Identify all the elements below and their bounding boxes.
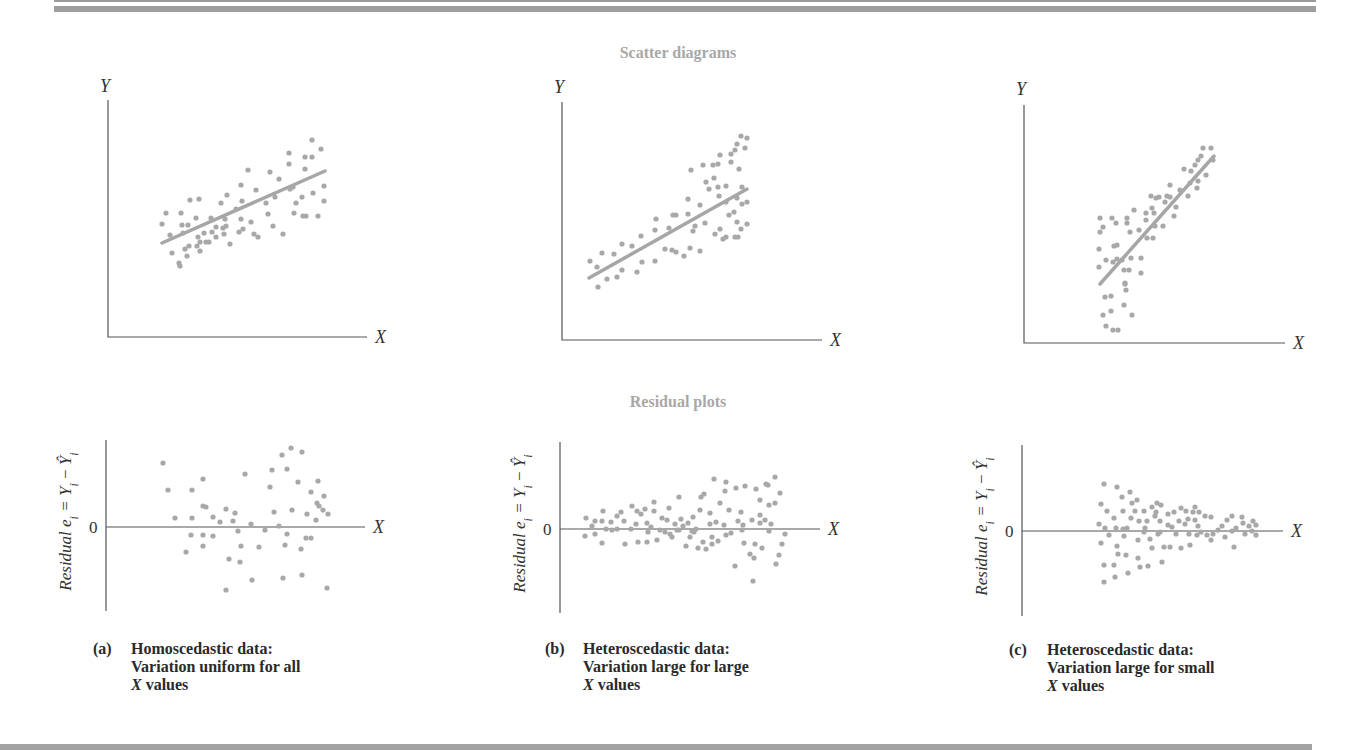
data-point (286, 150, 291, 155)
data-point (772, 474, 777, 479)
caption-variable: X (131, 676, 142, 693)
data-point (189, 487, 194, 492)
data-point (609, 527, 614, 532)
data-point (757, 520, 762, 525)
caption-line1: Heteroscedastic data: (583, 640, 730, 657)
data-point (741, 540, 746, 545)
data-point (324, 585, 329, 590)
data-point (697, 202, 702, 207)
data-point (1156, 194, 1161, 199)
data-point (732, 147, 737, 152)
data-point (753, 486, 758, 491)
x-axis-label: X (1292, 333, 1305, 353)
regression-line (589, 189, 747, 278)
data-point (1102, 525, 1107, 530)
data-point (772, 500, 777, 505)
data-point (1224, 517, 1229, 522)
data-point (723, 183, 728, 188)
data-point (685, 520, 690, 525)
data-point (1176, 518, 1181, 523)
data-point (702, 220, 707, 225)
data-point (304, 511, 309, 516)
data-point (587, 258, 592, 263)
data-point (265, 211, 270, 216)
data-point (1153, 509, 1158, 514)
data-point (1178, 545, 1183, 550)
data-point (1194, 185, 1199, 190)
data-point (1098, 501, 1103, 506)
data-point (284, 466, 289, 471)
data-point (759, 545, 764, 550)
data-point (235, 528, 240, 533)
data-point (1096, 264, 1101, 269)
data-point (739, 184, 744, 189)
data-point (690, 514, 695, 519)
data-point (201, 230, 206, 235)
data-point (1098, 540, 1103, 545)
data-point (1200, 145, 1205, 150)
data-point (706, 186, 711, 191)
data-point (732, 563, 737, 568)
data-point (226, 556, 231, 561)
caption-line3: values (594, 676, 641, 693)
data-point (782, 531, 787, 536)
data-point (723, 199, 728, 204)
data-point (628, 526, 633, 531)
data-point (200, 532, 205, 537)
data-point (1210, 531, 1215, 536)
data-point (1112, 574, 1117, 579)
data-point (1204, 532, 1209, 537)
data-point (700, 162, 705, 167)
data-point (165, 487, 170, 492)
data-point (1208, 537, 1213, 542)
data-point (315, 478, 320, 483)
data-point (1131, 207, 1136, 212)
data-point (1144, 518, 1149, 523)
data-point (320, 507, 325, 512)
data-point (629, 243, 634, 248)
data-point (683, 543, 688, 548)
data-point (1134, 497, 1139, 502)
data-point (621, 518, 626, 523)
data-point (685, 211, 690, 216)
data-point (1135, 537, 1140, 542)
data-point (715, 184, 720, 189)
data-point (237, 559, 242, 564)
data-point (701, 491, 706, 496)
data-point (687, 534, 692, 539)
data-point (1150, 235, 1155, 240)
data-point (1149, 545, 1154, 550)
axes (108, 100, 367, 337)
data-point (1151, 210, 1156, 215)
scatter-a-plot: YX (100, 76, 387, 347)
data-point (762, 517, 767, 522)
data-point (672, 521, 677, 526)
data-point (1114, 242, 1119, 247)
data-point (757, 497, 762, 502)
data-point (1113, 220, 1118, 225)
data-point (1169, 524, 1174, 529)
data-point (167, 232, 172, 237)
data-point (180, 230, 185, 235)
data-point (1114, 543, 1119, 548)
data-point (239, 198, 244, 203)
data-point (1101, 562, 1106, 567)
data-point (169, 250, 174, 255)
data-point (707, 510, 712, 515)
data-point (592, 531, 597, 536)
bottom-rule (0, 744, 1312, 750)
data-point (1157, 529, 1162, 534)
residual-b-plot: 0XResidual ei = Yi − Ŷi (510, 442, 840, 613)
data-point (614, 513, 619, 518)
data-point (742, 483, 747, 488)
data-point (1114, 256, 1119, 261)
data-point (222, 216, 227, 221)
data-point (1111, 515, 1116, 520)
data-point (773, 561, 778, 566)
data-point (187, 197, 192, 202)
data-point (1128, 255, 1133, 260)
data-point (734, 195, 739, 200)
data-point (1159, 559, 1164, 564)
data-point (1101, 481, 1106, 486)
data-point (196, 196, 201, 201)
